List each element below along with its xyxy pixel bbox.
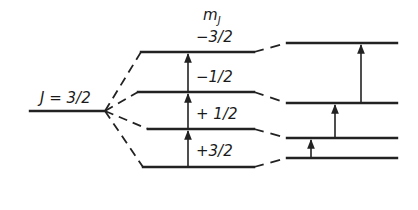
connector-mid-right-plus-3-2	[254, 158, 287, 167]
connector-j-to-plus-1-2	[105, 111, 148, 129]
column-header: mJ	[203, 8, 221, 26]
mj-label-minus-1-2: −1/2	[196, 70, 233, 85]
connector-j-to-minus-1-2	[105, 92, 138, 111]
column-header-sub: J	[218, 15, 221, 26]
connector-mid-right-plus-1-2	[254, 129, 287, 138]
parent-level-label: J = 3/2	[40, 91, 91, 106]
connector-mid-right-minus-1-2	[254, 92, 287, 103]
mj-label-minus-3-2: −3/2	[196, 30, 233, 45]
mj-label-plus-3-2: +3/2	[196, 144, 233, 159]
mj-label-plus-1-2: + 1/2	[196, 107, 237, 122]
column-header-main: m	[203, 6, 218, 24]
connector-j-to-minus-3-2	[105, 52, 141, 111]
energy-level-diagram: J = 3/2 mJ −3/2 −1/2 + 1/2 +3/2	[0, 0, 418, 210]
connector-mid-right-minus-3-2	[254, 43, 287, 52]
